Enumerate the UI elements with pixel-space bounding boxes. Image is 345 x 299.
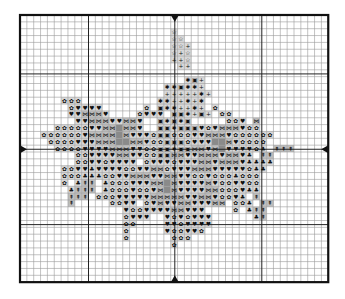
stitch-symbol: ♥ [137,118,142,124]
stitch-symbol: ♥ [178,187,183,193]
stitch-symbol: ✿ [69,166,74,172]
stitch-symbol: ♥ [165,159,170,165]
stitch-symbol: ⋈ [137,139,143,145]
stitch-cell [212,138,219,145]
stitch-symbol: ✿ [69,146,74,152]
stitch-symbol: ✿ [69,98,74,104]
stitch-symbol: ♥ [96,125,101,131]
stitch-symbol: ✿ [69,139,74,145]
stitch-symbol: ♥ [165,207,170,213]
stitch-symbol: ✱ [165,118,170,124]
stitch-symbol: ♥ [192,228,197,234]
stitch-symbol: ✿ [48,132,53,138]
stitch-symbol: ⋈ [205,180,211,186]
stitch-symbol: ✿ [240,200,245,206]
stitch-symbol: ✿ [172,228,177,234]
stitch-symbol: ⋈ [205,166,211,172]
stitch-symbol: ♣ [254,214,259,220]
stitch-symbol: ☆ [172,50,177,56]
stitch-symbol: ♣ [247,152,252,158]
stitch-symbol: ♥ [240,159,245,165]
stitch-symbol: + [206,91,211,97]
stitch-symbol: ✿ [254,132,259,138]
stitch-symbol: ⋈ [164,194,170,200]
stitch-symbol: ⋈ [212,152,218,158]
stitch-symbol: ⋈ [171,207,177,213]
stitch-symbol: ♣ [267,159,272,165]
stitch-symbol: ⇞ [69,200,74,206]
stitch-cell [116,125,123,132]
stitch-symbol: ✿ [213,173,218,179]
stitch-symbol: ♥ [165,228,170,234]
stitch-symbol: ✿ [144,159,149,165]
stitch-symbol: ♥ [76,166,81,172]
stitch-symbol: ♥ [192,180,197,186]
stitch-symbol: ♥ [144,111,149,117]
stitch-symbol: ▣ [171,111,177,117]
stitch-symbol: ✿ [131,221,136,227]
stitch-cell [116,138,123,145]
stitch-symbol: ♥ [130,152,135,158]
stitch-symbol: ✿ [151,152,156,158]
stitch-symbol: ♥ [151,159,156,165]
stitch-symbol: ♥ [89,146,94,152]
stitch-symbol: ✿ [62,125,67,131]
stitch-symbol: ⋈ [130,118,136,124]
stitch-symbol: ⋈ [178,152,184,158]
stitch-symbol: ✿ [69,125,74,131]
stitch-symbol: ✿ [83,152,88,158]
stitch-symbol: ✿ [158,139,163,145]
stitch-symbol: ♥ [165,214,170,220]
stitch-symbol: ✿ [124,221,129,227]
stitch-symbol: ♥ [206,139,211,145]
stitch-symbol: ♥ [130,180,135,186]
stitch-symbol: ♥ [124,173,129,179]
stitch-symbol: ⇞ [261,214,266,220]
stitch-symbol: ♥ [185,180,190,186]
stitch-symbol: ♥ [226,166,231,172]
stitch-symbol: ♥ [199,200,204,206]
stitch-symbol: ⋈ [205,194,211,200]
stitch-symbol: ✿ [254,139,259,145]
stitch-symbol: ♥ [158,159,163,165]
stitch-symbol: ✿ [110,194,115,200]
stitch-symbol: ⋈ [151,180,157,186]
stitch-symbol: ♣ [89,166,94,172]
stitch-symbol: ♥ [240,118,245,124]
stitch-symbol: ▣ [178,146,184,152]
stitch-symbol: ✿ [185,132,190,138]
stitch-symbol: ♥ [82,132,87,138]
stitch-symbol: ♣ [82,173,87,179]
stitch-symbol: ♥ [117,159,122,165]
stitch-symbol: ♥ [151,207,156,213]
cross-stitch-chart: ☆☆☆☆☆+☆+☆++☆++✱▣+✱✱▣✱✱++++++✱+✿✿✿✱✱++✱+✱… [0,0,345,299]
stitch-cell [219,145,226,152]
stitch-symbol: ▣ [171,139,177,145]
stitch-symbol: ♥ [130,214,135,220]
stitch-symbol: ✿ [172,214,177,220]
stitch-symbol: ♥ [89,125,94,131]
stitch-symbol: ✱ [165,105,170,111]
stitch-symbol: ♥ [158,207,163,213]
stitch-symbol: ⋈ [137,173,143,179]
stitch-symbol: ⋈ [192,146,198,152]
stitch-symbol: ✿ [233,118,238,124]
stitch-symbol: ♥ [199,132,204,138]
stitch-symbol: ✿ [185,235,190,241]
stitch-symbol: ✿ [62,139,67,145]
stitch-symbol: ✿ [220,187,225,193]
stitch-symbol: ⋈ [89,111,95,117]
stitch-symbol: ⇞ [89,180,94,186]
stitch-symbol: ⋈ [130,173,136,179]
stitch-symbol: ✿ [172,132,177,138]
stitch-symbol: ♥ [206,214,211,220]
stitch-symbol: ♥ [178,166,183,172]
stitch-symbol: ✿ [117,187,122,193]
stitch-symbol: ⋈ [212,200,218,206]
stitch-symbol: ✿ [83,125,88,131]
stitch-symbol: ⋈ [96,118,102,124]
stitch-symbol: ⋈ [103,125,109,131]
stitch-cell [164,179,171,186]
stitch-symbol: ♥ [240,146,245,152]
stitch-symbol: ♥ [96,166,101,172]
